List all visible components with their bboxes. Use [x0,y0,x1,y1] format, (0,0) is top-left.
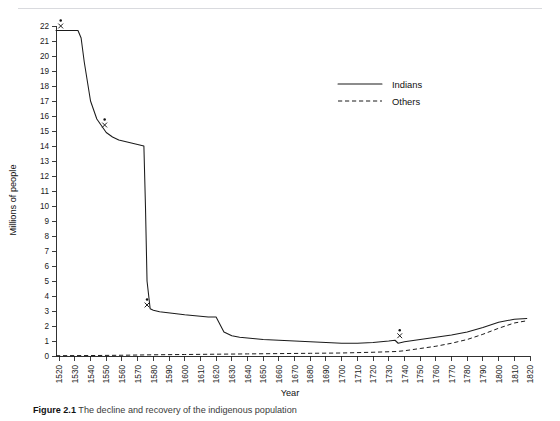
x-axis-ticks [59,356,530,361]
x-tick-label: 1680 [306,365,315,384]
y-tick-label: 20 [40,52,50,61]
x-tick-label: 1710 [354,365,363,384]
x-tick-label: 1700 [338,365,347,384]
page-background: 012345678910111213141516171819202122 152… [0,0,560,421]
x-tick-label: 1730 [385,365,394,384]
x-axis-title: Year [281,388,300,398]
x-tick-label: 1810 [511,365,520,384]
x-tick-label: 1770 [448,365,457,384]
y-tick-label: 12 [40,172,50,181]
chart-legend: Indians Others [338,79,423,107]
population-decline-line-chart: 012345678910111213141516171819202122 152… [0,0,560,400]
figure-chart-area: 012345678910111213141516171819202122 152… [0,0,560,400]
y-axis-title: Millions of people [8,165,18,236]
y-tick-label: 1 [44,337,49,346]
x-tick-label: 1610 [197,365,206,384]
x-tick-label: 1790 [479,365,488,384]
marker-1735 [397,329,402,338]
x-tick-label: 1520 [55,365,64,384]
y-tick-label: 7 [44,247,49,256]
x-tick-label: 1760 [432,365,441,384]
x-tick-label: 1530 [71,365,80,384]
x-tick-label: 1540 [87,365,96,384]
x-axis-tick-labels: 1520153015401550156015701580159016001610… [55,365,535,384]
y-tick-label: 18 [40,82,50,91]
y-tick-label: 22 [40,22,50,31]
x-tick-label: 1660 [275,365,284,384]
x-tick-label: 1640 [244,365,253,384]
x-tick-label: 1780 [463,365,472,384]
x-tick-label: 1550 [102,365,111,384]
y-tick-label: 0 [44,352,49,361]
x-tick-label: 1560 [118,365,127,384]
y-tick-label: 16 [40,112,50,121]
series-line-others [56,321,527,356]
y-tick-label: 15 [40,127,50,136]
x-tick-label: 1650 [259,365,268,384]
marker-1518 [58,19,63,28]
legend-label-others: Others [392,96,420,107]
y-tick-label: 6 [44,262,49,271]
x-tick-label: 1690 [322,365,331,384]
y-axis-ticks [52,26,57,356]
x-tick-label: 1630 [228,365,237,384]
x-tick-label: 1750 [416,365,425,384]
y-tick-label: 14 [40,142,50,151]
y-tick-label: 3 [44,307,49,316]
figure-caption: Figure 2.1 The decline and recovery of t… [33,404,533,417]
y-tick-label: 11 [41,187,50,196]
figure-caption-text: The decline and recovery of the indigeno… [78,405,296,415]
x-tick-label: 1670 [291,365,300,384]
x-tick-label: 1590 [165,365,174,384]
x-tick-label: 1570 [134,365,143,384]
y-tick-label: 17 [40,97,50,106]
x-tick-label: 1720 [369,365,378,384]
y-tick-label: 2 [44,322,49,331]
chart-series [56,31,527,356]
chart-axes [52,26,531,361]
marker-1548 [102,118,107,127]
x-tick-label: 1580 [150,365,159,384]
figure-caption-number: Figure 2.1 [33,405,76,415]
x-tick-label: 1740 [401,365,410,384]
y-tick-label: 9 [44,217,49,226]
x-tick-label: 1800 [495,365,504,384]
chart-annotation-markers [58,19,402,338]
y-tick-label: 13 [40,157,50,166]
y-tick-label: 19 [40,67,50,76]
legend-label-indians: Indians [392,79,423,90]
y-tick-label: 8 [44,232,49,241]
series-line-indians [56,31,527,344]
y-tick-label: 21 [40,37,50,46]
y-tick-label: 4 [44,292,49,301]
y-tick-label: 10 [40,202,50,211]
x-tick-label: 1620 [212,365,221,384]
y-axis-tick-labels: 012345678910111213141516171819202122 [40,22,50,361]
y-tick-label: 5 [44,277,49,286]
x-tick-label: 1820 [526,365,535,384]
x-tick-label: 1600 [181,365,190,384]
